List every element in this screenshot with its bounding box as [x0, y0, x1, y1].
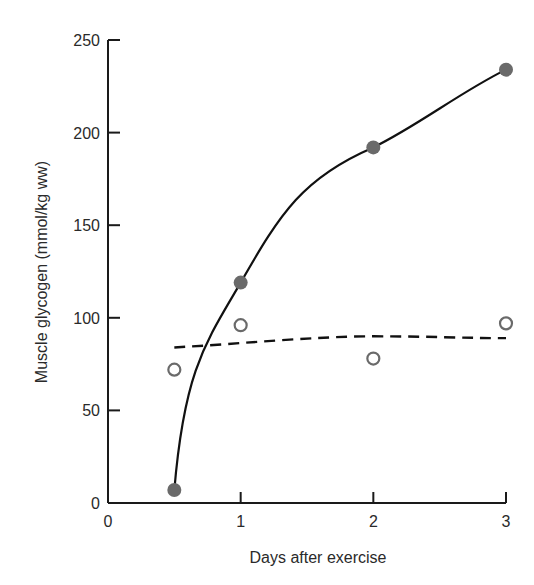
glycogen-chart: 050100150200250 0123 Days after exercise… [0, 0, 534, 585]
y-tick-label: 100 [73, 310, 100, 327]
y-axis-title: Muscle glycogen (mmol/kg ww) [33, 161, 50, 383]
filled-circle-marker [366, 140, 380, 154]
x-tick-label: 1 [236, 513, 245, 530]
y-tick-label: 50 [82, 402, 100, 419]
x-ticks: 0123 [104, 492, 511, 530]
x-tick-label: 3 [502, 513, 511, 530]
y-tick-label: 200 [73, 125, 100, 142]
x-tick-label: 0 [104, 513, 113, 530]
open-circle-marker [367, 353, 379, 365]
solid-fit-curve [174, 70, 506, 490]
x-tick-label: 2 [369, 513, 378, 530]
data-markers [167, 63, 513, 497]
axes [108, 40, 506, 503]
dashed-fit-curve [174, 336, 506, 347]
open-circle-marker [500, 317, 512, 329]
open-circle-marker [168, 364, 180, 376]
fit-curves [174, 70, 506, 490]
open-circle-marker [235, 319, 247, 331]
filled-circle-marker [234, 276, 248, 290]
y-tick-label: 250 [73, 32, 100, 49]
y-tick-label: 0 [91, 495, 100, 512]
y-ticks: 050100150200250 [73, 32, 120, 512]
filled-circle-marker [499, 63, 513, 77]
x-axis-title: Days after exercise [250, 549, 387, 566]
y-tick-label: 150 [73, 217, 100, 234]
filled-circle-marker [167, 483, 181, 497]
